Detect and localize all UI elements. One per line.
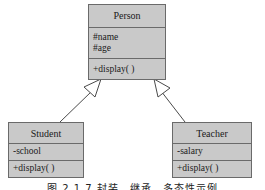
method-display: +display( ) [177, 163, 247, 174]
teacher-inheritance-line [161, 91, 185, 122]
class-teacher-methods: +display( ) [173, 160, 251, 177]
student-inheritance-line [60, 91, 92, 122]
class-person-name: Person [89, 5, 165, 27]
class-person-attributes: #name #age [89, 27, 165, 58]
teacher-generalization-arrowhead-icon [154, 79, 170, 97]
attribute-school: -school [13, 146, 79, 157]
class-teacher: Teacher -salary +display( ) [172, 122, 252, 178]
method-display: +display( ) [13, 163, 79, 174]
class-person: Person #name #age +display( ) [88, 4, 166, 80]
figure-caption: 图 2.1.7 封装、继承、多态性示例 [0, 180, 265, 190]
class-person-methods: +display( ) [89, 58, 165, 80]
class-teacher-attributes: -salary [173, 143, 251, 160]
class-student-name: Student [9, 123, 83, 143]
attribute-age: #age [93, 43, 161, 54]
class-student-attributes: -school [9, 143, 83, 160]
class-student-methods: +display( ) [9, 160, 83, 177]
attribute-name: #name [93, 32, 161, 43]
student-generalization-arrowhead-icon [84, 79, 101, 97]
class-teacher-name: Teacher [173, 123, 251, 143]
class-student: Student -school +display( ) [8, 122, 84, 178]
method-display: +display( ) [93, 64, 161, 75]
attribute-salary: -salary [177, 146, 247, 157]
